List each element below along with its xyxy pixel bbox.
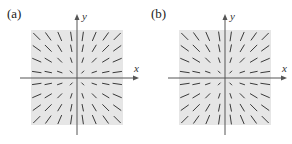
panel-a: xy (a) xyxy=(0,0,146,144)
y-axis-arrow-icon xyxy=(75,14,80,20)
y-axis-label: y xyxy=(229,10,235,22)
direction-field-b: xy xyxy=(146,0,292,144)
panel-b: xy (b) xyxy=(146,0,292,144)
panel-label-a: (a) xyxy=(7,6,21,22)
x-axis-label: x xyxy=(133,62,139,74)
x-axis-label: x xyxy=(281,62,287,74)
x-axis-arrow-icon xyxy=(133,76,139,81)
x-axis-arrow-icon xyxy=(281,76,287,81)
y-axis-arrow-icon xyxy=(223,14,228,20)
direction-field-a: xy xyxy=(0,0,146,144)
y-axis-label: y xyxy=(81,10,87,22)
panel-label-b: (b) xyxy=(151,6,166,22)
